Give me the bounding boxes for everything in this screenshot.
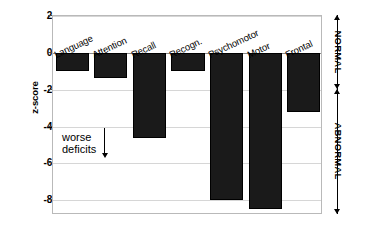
arrow-down-icon — [334, 209, 340, 214]
arrow-up-icon — [334, 89, 340, 94]
worse-deficits-line1: worse — [62, 131, 96, 144]
z-score-bar-chart: z-score 20-2-4-6-8 LanguageAttentionReca… — [0, 0, 373, 227]
down-arrow-icon — [101, 128, 108, 158]
worse-deficits-text: worse deficits — [62, 131, 96, 156]
bar-recall — [133, 53, 166, 138]
abnormal-range-label: ABNORMAL — [333, 123, 344, 180]
arrow-up-icon — [334, 15, 340, 20]
y-axis-ticks: 20-2-4-6-8 — [0, 15, 52, 214]
worse-deficits-annotation: worse deficits — [62, 128, 108, 158]
worse-deficits-line2: deficits — [62, 143, 96, 156]
bar-frontal — [287, 53, 320, 112]
bar-psychomotor — [210, 53, 243, 200]
bar-motor — [249, 53, 282, 210]
normal-range-label: NORMAL — [333, 30, 344, 73]
